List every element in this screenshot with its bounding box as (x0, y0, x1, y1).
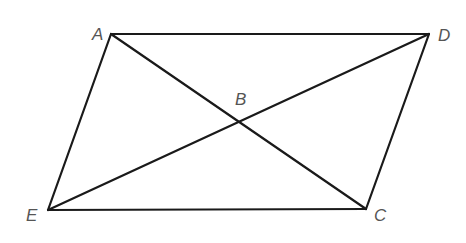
label-C: C (374, 206, 387, 225)
segment-CE (48, 209, 366, 210)
segment-ED (48, 34, 429, 210)
segment-DC (366, 34, 429, 209)
label-D: D (438, 26, 450, 45)
label-E: E (26, 206, 38, 225)
labels: A D B E C (26, 25, 450, 225)
label-A: A (91, 25, 103, 44)
edges (48, 34, 429, 210)
label-B: B (235, 90, 246, 109)
segment-EA (48, 34, 111, 210)
parallelogram-diagram: A D B E C (0, 0, 466, 243)
